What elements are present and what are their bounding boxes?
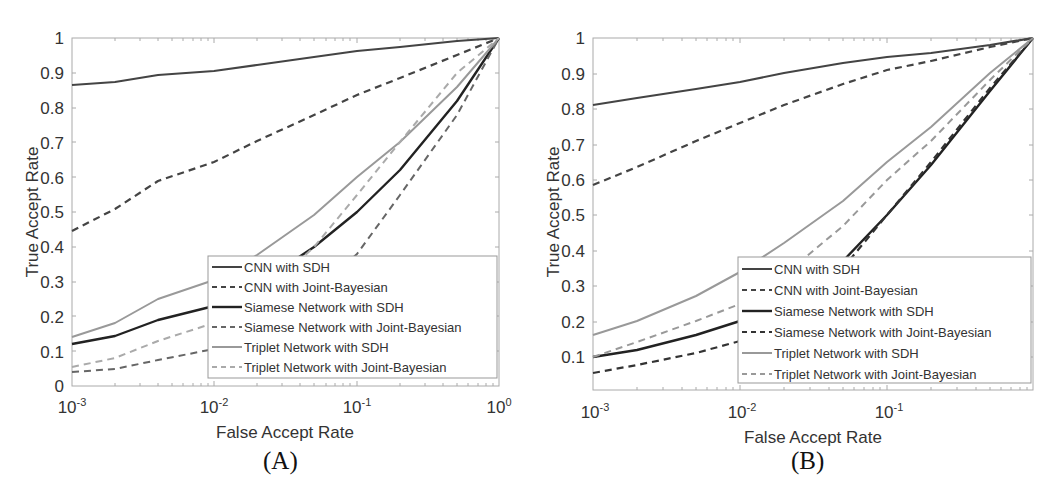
ytick-label: 0.4 [561,242,585,261]
ytick-label: 0.1 [40,343,64,362]
ytick-label: 1 [576,29,585,48]
xtick-label: 10-2 [728,401,757,422]
figure-svg: 1 0.9 0.8 0.7 0.6 0.5 0.4 0.3 0.2 0.1 0 … [0,0,1057,503]
ytick-label: 0.1 [561,348,585,367]
ytick-label: 0.2 [561,313,585,332]
chart-a-x-axis: 10-3 10-2 10-1 100 [58,396,512,417]
legend-label: CNN with SDH [244,260,330,275]
ytick-label: 0.5 [561,206,585,225]
chart-a: 1 0.9 0.8 0.7 0.6 0.5 0.4 0.3 0.2 0.1 0 … [23,29,512,442]
series-b-cnn-jb [593,38,1033,185]
series-a-cnn-jb [72,38,499,231]
chart-a-legend: CNN with SDH CNN with Joint-Bayesian Sia… [208,256,497,378]
legend-label: Triplet Network with Joint-Bayesian [244,360,447,375]
xtick-label: 10-3 [58,396,87,417]
ytick-label: 0.9 [40,64,64,83]
ytick-label: 0.5 [40,203,64,222]
legend-label: Triplet Network with SDH [774,346,919,361]
panel-label-a: (A) [263,447,298,475]
xtick-label: 100 [486,396,511,417]
ytick-label: 0.9 [561,65,585,84]
ytick-label: 0.6 [40,169,64,188]
chart-b-legend: CNN with SDH CNN with Joint-Bayesian Sia… [738,257,1031,383]
ytick-label: 0.7 [561,136,585,155]
ytick-label: 1 [55,29,64,48]
legend-label: Triplet Network with Joint-Bayesian [774,367,977,382]
ytick-label: 0 [55,377,64,396]
xtick-label: 10-1 [343,396,372,417]
legend-label: Siamese Network with SDH [244,300,404,315]
legend-label: Triplet Network with SDH [244,340,389,355]
legend-label: CNN with Joint-Bayesian [774,283,918,298]
ytick-label: 0.4 [40,238,64,257]
legend-label: CNN with Joint-Bayesian [244,280,388,295]
legend-label: CNN with SDH [774,262,860,277]
chart-b-y-axis: 1 0.9 0.8 0.7 0.6 0.5 0.4 0.3 0.2 0.1 [561,29,585,367]
legend-label: Siamese Network with Joint-Bayesian [244,320,461,335]
ytick-label: 0.2 [40,308,64,327]
legend-label: Siamese Network with SDH [774,304,934,319]
chart-a-y-label: True Accept Rate [23,147,42,278]
series-a-cnn-sdh [72,38,499,85]
xtick-label: 10-1 [875,401,904,422]
ytick-label: 0.8 [40,99,64,118]
chart-b-x-label: False Accept Rate [744,428,882,447]
panel-label-b: (B) [791,447,824,475]
ytick-label: 0.3 [40,273,64,292]
chart-a-y-axis: 1 0.9 0.8 0.7 0.6 0.5 0.4 0.3 0.2 0.1 0 [40,29,64,396]
ytick-label: 0.3 [561,277,585,296]
xtick-label: 10-2 [200,396,229,417]
ytick-label: 0.7 [40,134,64,153]
chart-b-y-label: True Accept Rate [544,147,563,278]
legend-label: Siamese Network with Joint-Bayesian [774,325,991,340]
figure: 1 0.9 0.8 0.7 0.6 0.5 0.4 0.3 0.2 0.1 0 … [0,0,1057,503]
ytick-label: 0.6 [561,171,585,190]
chart-b-x-axis: 10-3 10-2 10-1 [581,401,904,422]
chart-b: 1 0.9 0.8 0.7 0.6 0.5 0.4 0.3 0.2 0.1 10… [544,29,1033,447]
chart-a-x-label: False Accept Rate [216,423,354,442]
xtick-label: 10-3 [581,401,610,422]
ytick-label: 0.8 [561,100,585,119]
